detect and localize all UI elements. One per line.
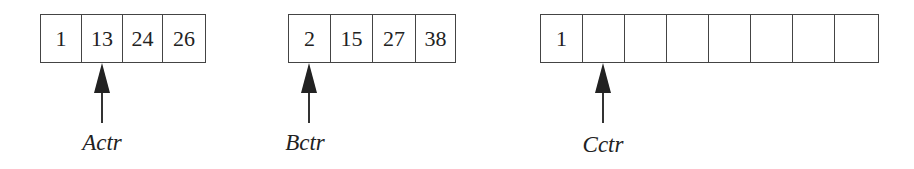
array-c-cell: 1	[541, 15, 583, 62]
array-a-cell: 26	[163, 15, 205, 62]
bctr-arrow-icon	[299, 63, 319, 123]
array-c-cell	[625, 15, 667, 62]
actr-label: Actr	[82, 130, 122, 156]
array-a-cell: 13	[82, 15, 123, 62]
array-a: 1 13 24 26	[40, 14, 206, 63]
array-c-cell	[793, 15, 835, 62]
cctr-arrow-icon	[593, 63, 613, 123]
bctr-label: Bctr	[285, 130, 325, 156]
array-c: 1	[540, 14, 879, 63]
array-c-cell	[835, 15, 878, 62]
array-c-cell	[751, 15, 793, 62]
cctr-label: Cctr	[583, 132, 624, 158]
array-b-cell: 38	[416, 15, 455, 62]
array-b: 2 15 27 38	[288, 14, 456, 63]
array-b-cell: 27	[373, 15, 416, 62]
array-c-cell	[583, 15, 625, 62]
array-a-cell: 24	[123, 15, 163, 62]
array-c-cell	[667, 15, 709, 62]
array-b-cell: 15	[331, 15, 373, 62]
array-a-cell: 1	[41, 15, 82, 62]
array-c-cell	[709, 15, 751, 62]
array-b-cell: 2	[289, 15, 331, 62]
actr-arrow-icon	[92, 63, 112, 123]
